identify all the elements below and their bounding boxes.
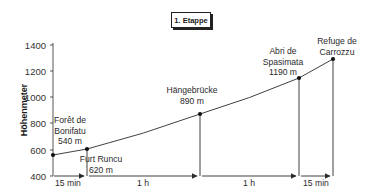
y-tick-label: 600 bbox=[30, 145, 46, 156]
waypoint-label: Furt Runcu620 m bbox=[80, 154, 123, 175]
y-tick-label: 1200 bbox=[25, 66, 46, 77]
y-tick-label: 800 bbox=[30, 118, 46, 129]
waypoint-label: Hängebrücke890 m bbox=[166, 85, 217, 106]
waypoint-marker bbox=[51, 153, 55, 157]
waypoint-marker bbox=[85, 147, 89, 151]
waypoint-labels: Forêt deBonifatu540 mFurt Runcu620 mHäng… bbox=[54, 36, 357, 175]
y-axis: 400600800100012001400 bbox=[25, 40, 53, 182]
y-tick-label: 400 bbox=[30, 171, 46, 182]
segment-duration-label: 15 min bbox=[303, 178, 329, 188]
waypoint-label: Refuge deCarrozzu bbox=[317, 36, 357, 57]
time-segments: 15 min1 h1 h15 min bbox=[54, 176, 330, 188]
waypoint-marker bbox=[198, 112, 202, 116]
elevation-profile-chart: 400600800100012001400 Höhenmeter 15 min1… bbox=[0, 0, 371, 196]
y-tick-label: 1400 bbox=[25, 40, 46, 51]
segment-duration-label: 15 min bbox=[55, 178, 81, 188]
waypoint-label: Abri deSpasimata1190 m bbox=[263, 46, 304, 77]
segment-duration-label: 1 h bbox=[137, 178, 149, 188]
waypoint-marker bbox=[331, 57, 335, 61]
waypoint-label: Forêt deBonifatu540 m bbox=[54, 115, 86, 146]
segment-duration-label: 1 h bbox=[243, 178, 255, 188]
waypoint-marker bbox=[297, 76, 301, 80]
y-axis-label: Höhenmeter bbox=[19, 83, 29, 136]
